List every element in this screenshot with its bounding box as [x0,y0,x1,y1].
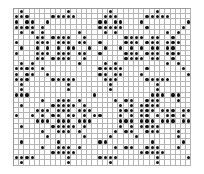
pattern-grid [13,8,191,166]
empty-cell [186,160,191,165]
